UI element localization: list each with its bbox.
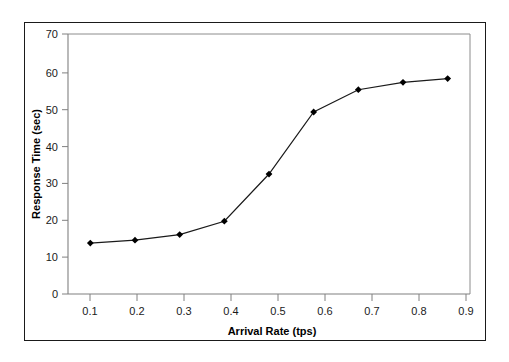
x-axis-ticks (90, 294, 466, 301)
x-tick-label-0.5: 0.5 (270, 305, 285, 317)
y-tick-label-30: 30 (46, 177, 58, 189)
y-tick-label-10: 10 (46, 251, 58, 263)
y-tick-label-70: 70 (46, 28, 58, 40)
x-tick-label-0.1: 0.1 (82, 305, 97, 317)
plot-area (68, 34, 470, 294)
x-tick-label-0.2: 0.2 (129, 305, 144, 317)
x-tick-label-0.6: 0.6 (317, 305, 332, 317)
x-tick-label-0.9: 0.9 (458, 305, 473, 317)
x-tick-label-0.8: 0.8 (411, 305, 426, 317)
x-tick-label-0.4: 0.4 (223, 305, 238, 317)
y-tick-label-60: 60 (46, 67, 58, 79)
x-tick-label-0.7: 0.7 (364, 305, 379, 317)
y-tick-label-40: 40 (46, 141, 58, 153)
x-axis-title: Arrival Rate (tps) (228, 325, 317, 337)
y-tick-label-50: 50 (46, 104, 58, 116)
y-axis-ticks (62, 34, 68, 294)
x-tick-label-0.3: 0.3 (176, 305, 191, 317)
line-chart: 0 10 20 30 40 50 60 70 0.1 0.2 0.3 0.4 0… (0, 0, 509, 362)
y-tick-label-0: 0 (52, 288, 58, 300)
y-tick-label-20: 20 (46, 214, 58, 226)
y-axis-title: Response Time (sec) (30, 109, 42, 219)
figure-container: 0 10 20 30 40 50 60 70 0.1 0.2 0.3 0.4 0… (0, 0, 509, 362)
